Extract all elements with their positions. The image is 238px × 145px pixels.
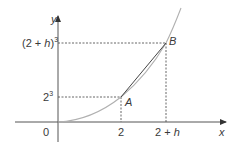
origin-label: 0 bbox=[43, 127, 49, 138]
point-a-label: A bbox=[125, 97, 132, 108]
y-tick-label-a: 23 bbox=[43, 92, 53, 103]
cubic-curve bbox=[58, 8, 181, 122]
x-axis-label: x bbox=[219, 127, 225, 138]
y-tick-label-b: (2 + h)3 bbox=[22, 38, 58, 49]
point-b-label: B bbox=[169, 36, 176, 47]
y-axis-label: y bbox=[51, 14, 57, 25]
cubic-curve-diagram bbox=[0, 0, 238, 145]
x-tick-label-a: 2 bbox=[118, 127, 124, 138]
secant-line-ab bbox=[121, 43, 166, 97]
x-tick-label-b: 2 + h bbox=[155, 127, 180, 138]
